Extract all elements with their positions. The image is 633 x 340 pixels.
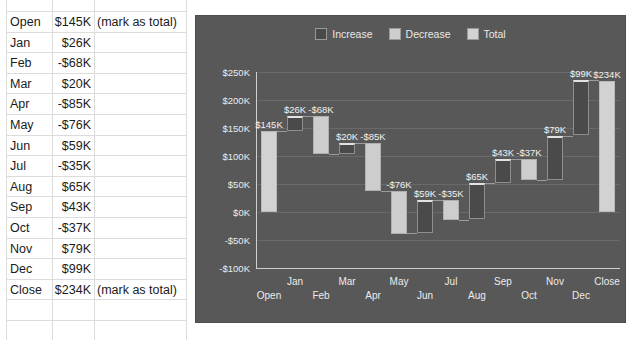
cell-value-may[interactable]: -$76K <box>53 115 91 135</box>
y-axis-tick-label: $200K <box>202 95 250 106</box>
x-axis-tick-label-may: May <box>390 276 409 287</box>
cell-value-aug[interactable]: $65K <box>53 177 91 197</box>
waterfall-connector <box>303 116 313 117</box>
bar-jul[interactable] <box>443 200 459 220</box>
waterfall-connector <box>563 136 573 137</box>
cell-value-sep[interactable]: $43K <box>53 197 91 217</box>
waterfall-connector <box>537 180 547 181</box>
data-label-feb: -$68K <box>308 104 333 115</box>
bar-may[interactable] <box>391 191 407 234</box>
y-axis-line <box>256 72 257 269</box>
cell-note-close[interactable]: (mark as total) <box>97 280 192 300</box>
spreadsheet-pane[interactable]: Open$145K(mark as total)Jan$26KFeb-$68KM… <box>0 0 196 340</box>
cell-value-feb[interactable]: -$68K <box>53 53 91 73</box>
cell-label-mar[interactable]: Mar <box>10 74 52 94</box>
cell-value-close[interactable]: $234K <box>53 280 91 300</box>
cell-value-dec[interactable]: $99K <box>53 259 91 279</box>
waterfall-connector <box>511 159 521 160</box>
cell-value-jul[interactable]: -$35K <box>53 156 91 176</box>
cell-note-open[interactable]: (mark as total) <box>97 12 192 32</box>
waterfall-connector <box>433 200 443 201</box>
data-label-close: $234K <box>593 69 620 80</box>
data-label-open: $145K <box>255 119 282 130</box>
data-label-may: -$76K <box>386 179 411 190</box>
data-label-dec: $99K <box>570 68 592 79</box>
x-axis-tick-label-jun: Jun <box>417 290 433 301</box>
data-label-aug: $65K <box>466 171 488 182</box>
cell-label-jun[interactable]: Jun <box>10 136 52 156</box>
legend-item-increase[interactable]: Increase <box>315 28 372 40</box>
chart-gridline <box>256 156 620 157</box>
legend-label: Decrease <box>406 28 451 40</box>
legend-label: Total <box>484 28 506 40</box>
data-label-jun: $59K <box>414 188 436 199</box>
waterfall-connector <box>459 220 469 221</box>
waterfall-connector <box>485 183 495 184</box>
x-axis-tick-label-sep: Sep <box>494 276 512 287</box>
bar-apr[interactable] <box>365 143 381 191</box>
x-axis-tick-label-jul: Jul <box>445 276 458 287</box>
grid-line-vertical <box>94 0 95 340</box>
data-label-apr: -$85K <box>360 131 385 142</box>
bar-mar[interactable] <box>339 143 355 154</box>
y-axis-tick-label: $50K <box>202 179 250 190</box>
cell-label-close[interactable]: Close <box>10 280 52 300</box>
waterfall-connector <box>355 143 365 144</box>
legend-item-total[interactable]: Total <box>467 28 506 40</box>
bar-feb[interactable] <box>313 116 329 154</box>
data-label-jan: $26K <box>284 104 306 115</box>
data-label-oct: -$37K <box>516 147 541 158</box>
cell-value-jun[interactable]: $59K <box>53 136 91 156</box>
waterfall-chart[interactable]: $250K$200K$150K$100K$50K$0K-$50K-$100K$1… <box>196 16 625 322</box>
y-axis-tick-label: $0K <box>202 207 250 218</box>
bar-dec[interactable] <box>573 80 589 135</box>
waterfall-connector <box>589 80 599 81</box>
cell-value-nov[interactable]: $79K <box>53 239 91 259</box>
chart-plot-area: $250K$200K$150K$100K$50K$0K-$50K-$100K$1… <box>196 16 625 322</box>
y-axis-tick-label: $100K <box>202 151 250 162</box>
y-axis-tick-label: -$50K <box>202 235 250 246</box>
chart-gridline <box>256 184 620 185</box>
cell-label-jan[interactable]: Jan <box>10 33 52 53</box>
bar-close[interactable] <box>599 81 615 212</box>
y-axis-tick-label: -$100K <box>202 263 250 274</box>
cell-label-may[interactable]: May <box>10 115 52 135</box>
x-axis-tick-label-aug: Aug <box>468 290 486 301</box>
bar-open[interactable] <box>261 131 277 212</box>
x-axis-tick-label-feb: Feb <box>312 290 329 301</box>
cell-label-jul[interactable]: Jul <box>10 156 52 176</box>
cell-value-open[interactable]: $145K <box>53 12 91 32</box>
cell-value-apr[interactable]: -$85K <box>53 94 91 114</box>
chart-gridline <box>256 72 620 73</box>
cell-label-aug[interactable]: Aug <box>10 177 52 197</box>
cell-label-oct[interactable]: Oct <box>10 218 52 238</box>
cell-label-open[interactable]: Open <box>10 12 52 32</box>
waterfall-connector <box>381 191 391 192</box>
x-axis-tick-label-apr: Apr <box>365 290 381 301</box>
cell-value-oct[interactable]: -$37K <box>53 218 91 238</box>
cell-label-nov[interactable]: Nov <box>10 239 52 259</box>
cell-label-feb[interactable]: Feb <box>10 53 52 73</box>
bar-oct[interactable] <box>521 159 537 180</box>
bar-aug[interactable] <box>469 183 485 219</box>
chart-gridline <box>256 240 620 241</box>
bar-sep[interactable] <box>495 159 511 183</box>
x-axis-tick-label-nov: Nov <box>546 276 564 287</box>
bar-nov[interactable] <box>547 136 563 180</box>
x-axis-tick-label-mar: Mar <box>338 276 355 287</box>
cell-label-apr[interactable]: Apr <box>10 94 52 114</box>
legend-swatch-total-icon <box>467 28 479 40</box>
bar-jan[interactable] <box>287 116 303 131</box>
chart-legend[interactable]: IncreaseDecreaseTotal <box>196 28 625 40</box>
cell-value-jan[interactable]: $26K <box>53 33 91 53</box>
data-label-mar: $20K <box>336 131 358 142</box>
grid-line-vertical <box>6 0 7 340</box>
bar-jun[interactable] <box>417 200 433 233</box>
legend-item-decrease[interactable]: Decrease <box>389 28 451 40</box>
data-label-jul: -$35K <box>438 188 463 199</box>
waterfall-connector <box>277 131 287 132</box>
cell-value-mar[interactable]: $20K <box>53 74 91 94</box>
x-axis-tick-label-jan: Jan <box>287 276 303 287</box>
cell-label-sep[interactable]: Sep <box>10 197 52 217</box>
cell-label-dec[interactable]: Dec <box>10 259 52 279</box>
